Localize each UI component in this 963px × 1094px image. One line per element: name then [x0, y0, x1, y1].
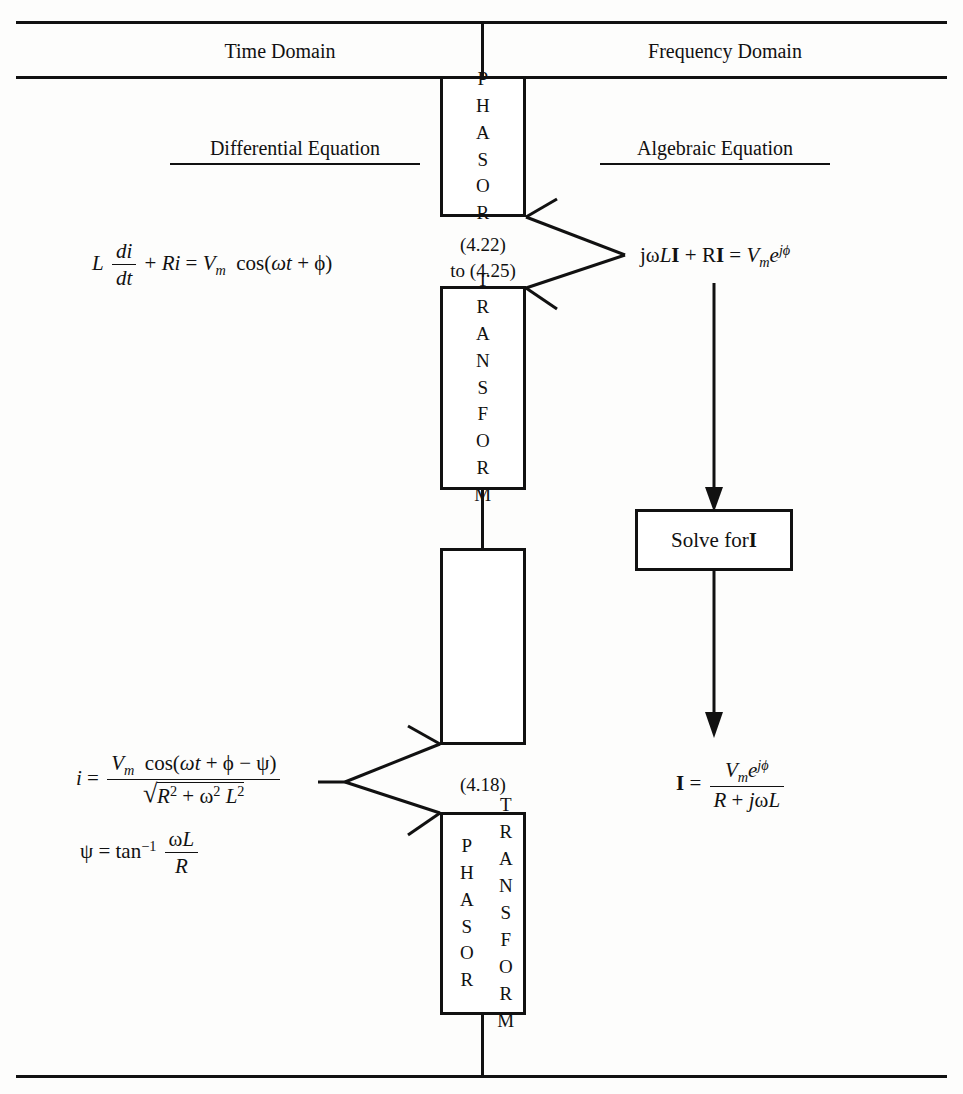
pt-phasor-letter-a: A — [460, 887, 474, 914]
pt-transform-letter-s: S — [500, 900, 511, 927]
psi-tan-sup: −1 — [141, 838, 156, 854]
header-frequency-domain: Frequency Domain — [575, 40, 875, 63]
bottom-connector-line — [481, 1013, 484, 1077]
transform-letter-r2: R — [476, 455, 489, 482]
pt-transform-letter-m: M — [497, 1008, 514, 1035]
de-V-sub: m — [215, 262, 225, 278]
solve-down-arrow — [705, 283, 723, 512]
algebraic-equation-expr: jωLI + RI = Vmejϕ — [640, 243, 790, 270]
solve-for-current-label: Solve for I — [638, 512, 790, 568]
ae-I: I — [671, 243, 679, 267]
ps-num-e-sup: jϕ — [757, 757, 768, 773]
psi-fraction: ωL R — [165, 828, 199, 878]
pt-transform-letter-r2: R — [499, 981, 512, 1008]
ts-den-omega: ω — [199, 784, 213, 808]
ps-fraction: Vmejϕ R + jωL — [710, 758, 785, 812]
ts-num-cos: cos( — [145, 751, 180, 775]
ps-num-V: V — [725, 758, 738, 782]
empty-box[interactable] — [440, 548, 526, 745]
pt-transform-letter-t: T — [500, 792, 512, 819]
ts-den-R-sup: 2 — [170, 783, 177, 799]
transform-box[interactable]: T R A N S F O R M — [440, 286, 526, 490]
ts-den-radicand: R2 + ω2 L2 — [157, 782, 244, 808]
de-V: V — [203, 251, 216, 275]
psi-numerator: ωL — [165, 828, 199, 853]
phasor-letter-p: P — [477, 66, 488, 93]
ts-num-close: ) — [269, 751, 276, 775]
ps-equals: = — [689, 771, 701, 795]
pt-transform-letter-n: N — [499, 873, 513, 900]
pt-transform-letter-a: A — [499, 846, 513, 873]
phasor-letter-s: S — [477, 147, 488, 174]
phasor-letter-a: A — [476, 120, 490, 147]
pt-phasor-letter-r: R — [460, 967, 473, 994]
transform-letter-s: S — [477, 375, 488, 402]
ts-den-omega-sup: 2 — [213, 783, 220, 799]
ts-den-R: R — [157, 784, 170, 808]
ae-V: V — [746, 243, 759, 267]
header-time-domain: Time Domain — [140, 40, 420, 63]
psi-symbol: ψ — [80, 839, 93, 863]
ae-omega: ω — [646, 243, 660, 267]
equation-ref-422-425-line1: (4.22) — [420, 232, 546, 258]
ts-num-V: V — [111, 751, 124, 775]
phasor-box[interactable]: P H A S O R — [440, 76, 526, 217]
pt-phasor-letter-p: P — [461, 833, 472, 860]
de-didt-numerator: di — [112, 240, 136, 265]
ts-i: i — [76, 766, 82, 790]
chevron2-bottom-barb — [408, 813, 440, 835]
phasor-transform-box[interactable]: P H A S O R T R A N S F O R M — [440, 812, 526, 1015]
ts-num-V-sub: m — [124, 762, 134, 778]
de-plus: + — [145, 251, 157, 275]
equation-ref-418: (4.18) — [420, 772, 546, 798]
ps-denominator: R + jωL — [710, 787, 785, 812]
de-cos-open: cos( — [236, 251, 271, 275]
ae-e: e — [770, 243, 779, 267]
subheader-differential-equation-label: Differential Equation — [170, 137, 420, 165]
ae-equals: = — [729, 243, 741, 267]
ae-e-sup: jϕ — [779, 242, 790, 258]
ae-L: L — [660, 243, 672, 267]
de-plus2: + — [297, 251, 309, 275]
ts-denominator: R2 + ω2 L2 — [107, 780, 280, 808]
ae-R: R — [702, 243, 716, 267]
transform-letter-r: R — [476, 294, 489, 321]
psi-denominator: R — [165, 853, 199, 878]
header-bottom-rule-right — [523, 76, 947, 79]
transform-letter-a: A — [476, 321, 490, 348]
transform-letter-t: T — [477, 267, 489, 294]
pt-phasor-letter-o: O — [460, 940, 474, 967]
phasor-transform-flow-diagram: Time Domain Frequency Domain Differentia… — [0, 0, 963, 1094]
result-down-arrow — [705, 571, 723, 738]
subheader-algebraic-equation-label: Algebraic Equation — [600, 137, 830, 165]
de-equals: = — [186, 251, 198, 275]
phasor-solution-expr: I = Vmejϕ R + jωL — [676, 758, 787, 812]
de-didt-denominator: dt — [112, 265, 136, 290]
ts-num-plus: + — [206, 751, 218, 775]
ps-den-L: L — [768, 788, 780, 812]
solve-for-current-box[interactable]: Solve for I — [635, 509, 793, 571]
subheader-differential-equation: Differential Equation — [170, 137, 420, 165]
phasor-transform-box-column-transform: T R A N S F O R M — [483, 815, 529, 1012]
solve-for-current-symbol: I — [749, 528, 757, 553]
de-Ri: Ri — [162, 251, 181, 275]
ts-den-L: L — [226, 784, 238, 808]
chevron2-top-barb — [408, 726, 440, 744]
chevron-top-barb — [526, 199, 557, 217]
phasor-letter-r: R — [476, 200, 489, 227]
result-down-arrow-head — [705, 712, 723, 738]
header-bottom-rule-left — [16, 76, 441, 79]
phasor-letter-h: H — [476, 93, 490, 120]
ts-den-radical: R2 + ω2 L2 — [143, 782, 244, 808]
psi-definition-expr: ψ = tan−1 ωL R — [80, 828, 201, 878]
pt-transform-letter-f: F — [500, 927, 511, 954]
transform-letter-o: O — [476, 428, 490, 455]
de-close: ) — [325, 251, 332, 275]
phasor-box-letters: P H A S O R — [443, 79, 523, 214]
de-L: L — [92, 251, 104, 275]
ts-den-plus: + — [182, 784, 194, 808]
de-omega-t: ωt — [271, 251, 292, 275]
chevron-bottom-barb — [526, 288, 557, 309]
ts-num-phi: ϕ — [223, 751, 234, 775]
ts-equals: = — [87, 766, 99, 790]
